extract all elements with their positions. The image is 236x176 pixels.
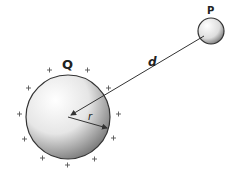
label-r: r: [88, 112, 92, 122]
distance-arrow: [71, 36, 204, 115]
sphere-p: [198, 18, 224, 44]
label-p: P: [207, 6, 214, 16]
label-q: Q: [62, 58, 73, 71]
electrostatics-diagram: Q P d r: [0, 0, 236, 176]
diagram-canvas: [0, 0, 236, 176]
label-d: d: [148, 56, 157, 68]
